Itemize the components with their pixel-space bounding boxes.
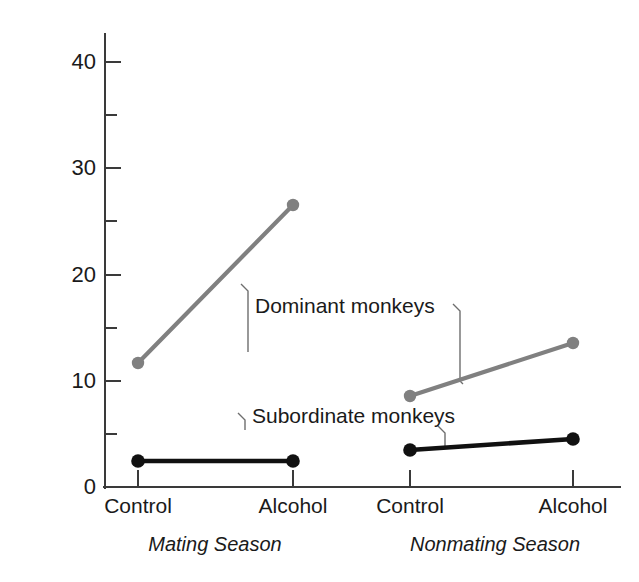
leader-line-dominant-mating bbox=[241, 284, 248, 352]
x-tick-label-nonmating-control: Control bbox=[350, 494, 470, 518]
data-point bbox=[132, 357, 144, 369]
series-label-dominant-monkeys: Dominant monkeys bbox=[255, 294, 435, 318]
leader-line-subordinate-mating bbox=[238, 413, 245, 430]
y-tick-label-40: 40 bbox=[44, 49, 96, 75]
y-axis-major-ticks bbox=[105, 62, 121, 487]
data-point bbox=[131, 454, 145, 468]
y-tick-label-20: 20 bbox=[44, 262, 96, 288]
series-dominant-mating-line bbox=[138, 205, 293, 363]
leader-line-dominant-nonmating bbox=[453, 304, 463, 384]
series-dominant-nonmating-line bbox=[410, 343, 573, 396]
y-tick-label-30: 30 bbox=[44, 155, 96, 181]
x-tick-label-mating-control: Control bbox=[78, 494, 198, 518]
leader-line-subordinate-nonmating bbox=[438, 426, 445, 447]
data-point bbox=[287, 199, 299, 211]
data-point bbox=[566, 432, 580, 446]
chart-figure: Frequency of aggressive behavior 0 10 20… bbox=[0, 0, 639, 582]
x-axis-ticks bbox=[138, 470, 573, 487]
x-tick-label-nonmating-alcohol: Alcohol bbox=[513, 494, 633, 518]
y-tick-label-10: 10 bbox=[44, 368, 96, 394]
data-point bbox=[567, 337, 579, 349]
group-label-nonmating-season: Nonmating Season bbox=[385, 533, 605, 556]
data-point bbox=[403, 443, 417, 457]
group-label-mating-season: Mating Season bbox=[125, 533, 305, 556]
data-point bbox=[286, 454, 300, 468]
series-subordinate-nonmating-line bbox=[410, 439, 573, 450]
series-label-subordinate-monkeys: Subordinate monkeys bbox=[252, 404, 455, 428]
data-point bbox=[404, 390, 416, 402]
x-tick-label-mating-alcohol: Alcohol bbox=[233, 494, 353, 518]
